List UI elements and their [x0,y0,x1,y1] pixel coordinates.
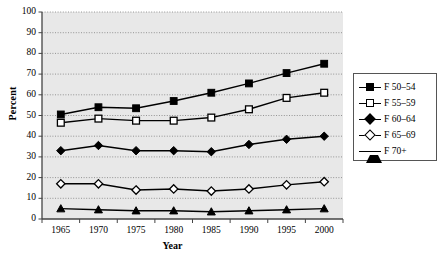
x-axis-title: Year [0,240,345,251]
x-tick-label: 1980 [154,226,194,236]
marker-open-square [246,106,253,113]
x-tick-label: 1965 [41,226,81,236]
marker-open-square [321,89,328,96]
legend-symbol [364,129,375,140]
marker-open-square [57,119,64,126]
legend-label: F 70+ [384,146,407,156]
marker-open-square [95,115,102,122]
legend-marker-open-square-icon [359,98,381,108]
marker-filled-square [246,80,253,87]
y-tick-label: 100 [6,7,36,17]
legend-marker-filled-triangle-icon [359,146,381,156]
legend-marker-open-diamond-icon [359,130,381,140]
y-tick-label: 50 [6,111,36,121]
y-tick-label: 30 [6,152,36,162]
marker-open-square [170,117,177,124]
legend-marker-filled-diamond-icon [359,114,381,124]
legend-label: F 55–59 [384,98,415,108]
marker-filled-square [321,60,328,67]
legend-symbol [366,99,374,107]
marker-open-square [208,114,215,121]
y-tick-label: 10 [6,193,36,203]
legend-item[interactable]: F 70+ [359,143,436,159]
y-tick-label: 90 [6,28,36,38]
marker-filled-square [208,89,215,96]
legend-item[interactable]: F 55–59 [359,95,436,111]
marker-filled-square [133,105,140,112]
legend-label: F 50–54 [384,82,415,92]
marker-filled-square [95,104,102,111]
legend-item[interactable]: F 60–64 [359,111,436,127]
y-tick-label: 40 [6,131,36,141]
marker-open-square [133,117,140,124]
marker-filled-square [170,98,177,105]
x-tick-label: 1995 [267,226,307,236]
y-tick-label: 0 [6,214,36,224]
y-tick-label: 80 [6,48,36,58]
legend-label: F 65–69 [384,130,415,140]
legend-marker-filled-square-icon [359,82,381,92]
legend-label: F 60–64 [384,114,415,124]
y-axis-title: Percent [7,69,18,139]
y-tick-label: 60 [6,90,36,100]
x-tick-label: 1970 [78,226,118,236]
legend-symbol [366,147,382,163]
y-tick-label: 70 [6,69,36,79]
legend-symbol [366,83,374,91]
marker-filled-square [283,70,290,77]
x-tick-label: 1990 [229,226,269,236]
chart-figure: Percent Year 0102030405060708090100 1965… [0,0,445,260]
x-tick-label: 1985 [191,226,231,236]
x-tick-label: 2000 [304,226,344,236]
legend-symbol [364,113,375,124]
legend-item[interactable]: F 50–54 [359,79,436,95]
marker-open-square [283,95,290,102]
y-tick-label: 20 [6,173,36,183]
x-tick-label: 1975 [116,226,156,236]
marker-filled-square [57,111,64,118]
chart-legend: F 50–54F 55–59F 60–64F 65–69F 70+ [353,73,437,161]
legend-item[interactable]: F 65–69 [359,127,436,143]
